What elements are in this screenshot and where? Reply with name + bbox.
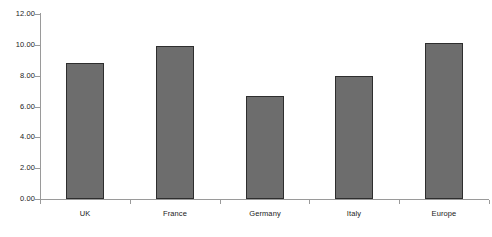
y-axis-tick-label: 12.00 xyxy=(0,10,35,18)
x-axis-category-label: France xyxy=(130,209,220,218)
y-axis-tick-label: 6.00 xyxy=(0,103,35,111)
x-axis-tick xyxy=(130,200,131,204)
bar-chart: 12.0010.008.006.004.002.000.00 UKFranceG… xyxy=(0,0,492,237)
bar xyxy=(246,96,284,199)
bar xyxy=(156,46,194,199)
y-axis-line xyxy=(40,13,41,200)
y-axis-tick xyxy=(35,14,40,15)
x-axis-tick xyxy=(220,200,221,204)
x-axis-line xyxy=(40,199,489,200)
y-axis-tick xyxy=(35,107,40,108)
y-axis-tick xyxy=(35,137,40,138)
x-axis-category-label: UK xyxy=(40,209,130,218)
y-axis-tick-label: 10.00 xyxy=(0,41,35,49)
x-axis-category-label: Europe xyxy=(399,209,489,218)
x-axis-tick xyxy=(309,200,310,204)
x-axis-tick xyxy=(40,200,41,204)
x-axis-tick xyxy=(399,200,400,204)
y-axis-tick-label: 4.00 xyxy=(0,133,35,141)
bar xyxy=(335,76,373,199)
y-axis-tick-label: 8.00 xyxy=(0,72,35,80)
x-axis-category-label: Germany xyxy=(220,209,310,218)
bar xyxy=(66,63,104,199)
y-axis-tick xyxy=(35,168,40,169)
y-axis-tick-label: 2.00 xyxy=(0,164,35,172)
y-axis-tick-label: 0.00 xyxy=(0,195,35,203)
x-axis-category-label: Italy xyxy=(309,209,399,218)
x-axis-tick xyxy=(489,200,490,204)
y-axis-tick xyxy=(35,45,40,46)
bar xyxy=(425,43,463,199)
y-axis-tick xyxy=(35,76,40,77)
